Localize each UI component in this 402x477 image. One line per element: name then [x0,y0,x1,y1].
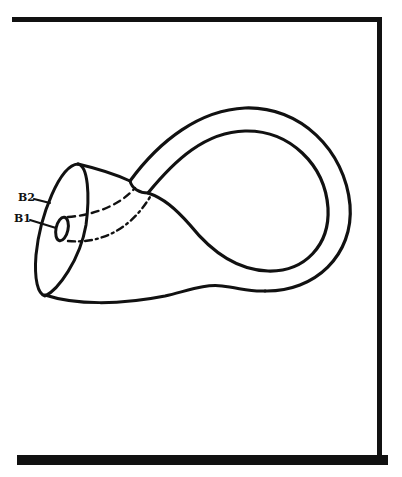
tube-inner-edge [148,131,328,271]
hidden-tube-lower [68,197,150,241]
label-b1: B1 [14,212,31,225]
label-b2: B2 [18,191,35,204]
frame-bottom-bar [17,455,388,465]
hidden-tube-upper [68,188,135,217]
frame-top-line [12,17,382,22]
klein-bottle-figure: B2 B1 [0,0,402,477]
body-bottom-edge [45,286,265,303]
klein-bottle-diagram [0,0,402,477]
boundary-b1-hole [54,216,71,242]
frame-right-line [377,17,382,460]
boundary-b2-ellipse [35,164,87,296]
tube-mouth [130,181,148,193]
